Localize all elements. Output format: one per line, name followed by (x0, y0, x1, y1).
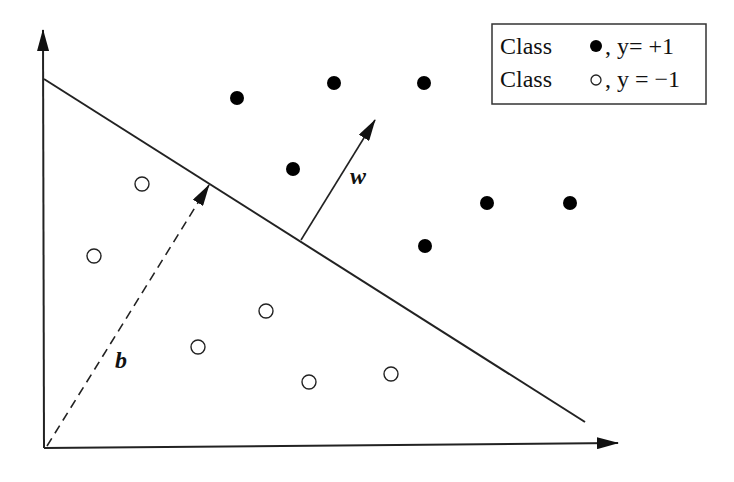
negative-point-icon (135, 177, 149, 191)
negative-point-icon (191, 340, 205, 354)
positive-point-icon (480, 196, 494, 210)
svm-hyperplane-diagram: w b Class , y= +1 Class , y = −1 (0, 0, 734, 482)
legend-entry-positive-suffix: , y= +1 (605, 33, 674, 59)
negative-class-points (87, 177, 398, 389)
positive-point-icon (563, 196, 577, 210)
w-label: w (350, 163, 367, 189)
legend-entry-negative-label: Class (500, 66, 552, 92)
b-offset-vector (47, 185, 209, 446)
negative-point-icon (384, 367, 398, 381)
negative-point-icon (259, 304, 273, 318)
legend: Class , y= +1 Class , y = −1 (492, 24, 706, 104)
filled-circle-icon (590, 40, 602, 52)
positive-point-icon (327, 76, 341, 90)
positive-point-icon (417, 76, 431, 90)
positive-point-icon (230, 91, 244, 105)
negative-point-icon (87, 249, 101, 263)
negative-point-icon (302, 375, 316, 389)
positive-point-icon (286, 162, 300, 176)
hollow-circle-icon (591, 75, 601, 85)
legend-entry-negative-suffix: , y = −1 (605, 66, 680, 92)
legend-entry-positive-label: Class (500, 33, 552, 59)
b-label: b (115, 347, 127, 373)
y-axis (43, 30, 44, 448)
positive-point-icon (418, 239, 432, 253)
x-axis (44, 443, 618, 448)
